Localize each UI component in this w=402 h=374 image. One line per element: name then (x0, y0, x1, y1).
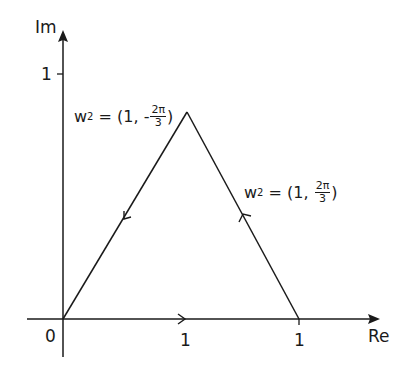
eq-lhs: w (74, 109, 87, 125)
eq-mid: = (1, (93, 109, 143, 125)
eq-sign: - (144, 109, 150, 125)
contour-diagram (0, 0, 402, 374)
eq-denominator: 3 (319, 193, 326, 205)
y-tick-label: 1 (41, 66, 52, 83)
eq-lhs: w (244, 185, 257, 201)
x-tick-label-right: 1 (294, 332, 305, 349)
eq-denominator: 3 (155, 117, 162, 129)
x-axis-label: Re (368, 328, 390, 345)
right-edge-equation: w2 = (1, 2π3) (244, 180, 338, 205)
eq-close: ) (167, 109, 173, 125)
eq-fraction: 2π3 (315, 180, 331, 205)
left-edge-equation: w2 = (1, -2π3) (74, 104, 173, 129)
eq-close: ) (331, 185, 337, 201)
eq-fraction: 2π3 (150, 104, 166, 129)
origin-label: 0 (45, 328, 56, 345)
x-tick-label-mid: 1 (180, 332, 191, 349)
edge-apex-to-origin (63, 112, 187, 319)
y-axis-label: Im (35, 19, 57, 36)
eq-mid: = (1, (263, 185, 313, 201)
